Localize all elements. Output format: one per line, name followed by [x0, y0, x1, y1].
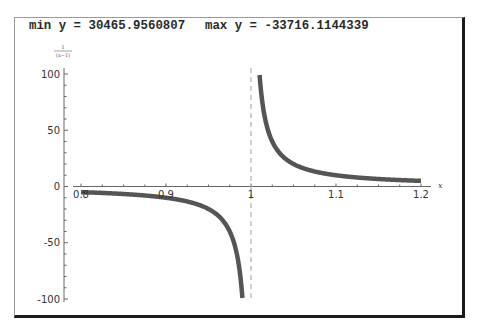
x-tick-label: 0.9 [158, 189, 174, 200]
y-label-denominator: (x−1) [56, 52, 70, 58]
y-tick-label: -100 [37, 294, 60, 305]
curve-right-branch [260, 75, 421, 181]
x-tick-label: 1.2 [413, 189, 429, 200]
y-tick-label: 100 [41, 69, 60, 80]
y-tick-label: 50 [47, 125, 60, 136]
x-tick-label: 1 [248, 189, 254, 200]
curve-left-branch [81, 192, 242, 298]
x-axis-label: x [438, 181, 443, 190]
y-label-numerator: 1 [61, 44, 64, 50]
y-tick-label: -50 [44, 237, 60, 248]
x-tick-label: 1.1 [328, 189, 344, 200]
y-tick-label: 0 [54, 181, 60, 192]
x-tick-label: 0.8 [73, 189, 89, 200]
axes [64, 68, 431, 302]
plot-area: 0.80.911.11.2100500-50-100x1(x−1) [0, 0, 478, 330]
